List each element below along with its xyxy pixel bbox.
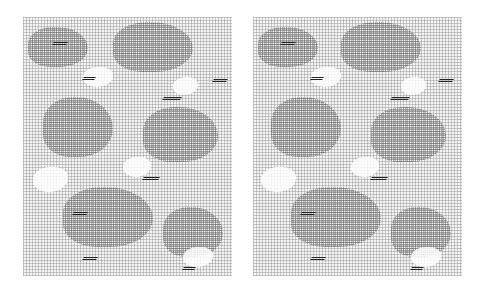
texture-region xyxy=(291,187,381,247)
dark-mark xyxy=(310,77,324,80)
dark-mark xyxy=(82,257,98,260)
dark-mark xyxy=(162,97,182,100)
dark-mark xyxy=(82,77,96,80)
texture-region xyxy=(63,187,153,247)
texture-region xyxy=(113,22,193,72)
halftone-texture-left xyxy=(23,17,232,276)
texture-region xyxy=(371,107,446,162)
highlight-region xyxy=(173,77,198,95)
dark-mark xyxy=(52,42,68,45)
highlight-region xyxy=(411,247,441,267)
dark-mark xyxy=(300,212,316,215)
dark-mark xyxy=(280,42,296,45)
dark-mark xyxy=(72,212,88,215)
texture-region xyxy=(28,27,88,67)
dark-mark xyxy=(182,267,196,270)
dark-mark xyxy=(142,177,160,180)
highlight-region xyxy=(261,167,296,192)
highlight-region xyxy=(33,167,68,192)
dark-mark xyxy=(438,79,454,82)
texture-region xyxy=(341,22,421,72)
highlight-region xyxy=(123,157,151,177)
texture-region xyxy=(143,107,218,162)
dark-mark xyxy=(310,257,326,260)
dark-mark xyxy=(212,79,228,82)
highlight-region xyxy=(401,77,426,95)
dark-mark xyxy=(370,177,388,180)
halftone-texture-right xyxy=(253,17,462,276)
highlight-region xyxy=(183,247,213,267)
highlight-region xyxy=(351,157,379,177)
dark-mark xyxy=(410,267,424,270)
texture-region xyxy=(271,97,341,157)
texture-region xyxy=(43,97,113,157)
texture-region xyxy=(258,27,318,67)
dark-mark xyxy=(390,97,410,100)
